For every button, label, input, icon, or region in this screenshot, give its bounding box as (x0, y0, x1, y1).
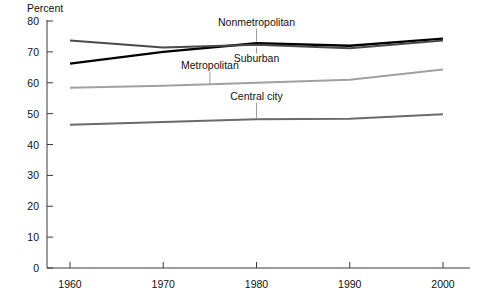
x-tick-label: 1990 (338, 278, 362, 290)
chart-page: 0102030405060708019601970198019902000 No… (0, 0, 488, 308)
y-tick-label: 40 (27, 139, 39, 151)
line-chart: 0102030405060708019601970198019902000 No… (0, 0, 488, 308)
x-tick-label: 1960 (58, 278, 82, 290)
y-tick-label: 10 (27, 231, 39, 243)
series-label-suburban: Suburban (234, 52, 280, 64)
y-tick-label: 50 (27, 108, 39, 120)
series-label-metropolitan: Metropolitan (181, 59, 239, 71)
x-tick-label: 2000 (431, 278, 455, 290)
series-line-suburban (70, 40, 443, 48)
y-tick-label: 30 (27, 169, 39, 181)
y-tick-label: 70 (27, 46, 39, 58)
y-tick-label: 20 (27, 200, 39, 212)
series-label-central-city: Central city (230, 90, 283, 102)
y-tick-label: 60 (27, 77, 39, 89)
x-tick-label: 1980 (245, 278, 269, 290)
y-tick-label: 0 (33, 262, 39, 274)
y-axis-title: Percent (27, 2, 63, 14)
x-tick-label: 1970 (152, 278, 176, 290)
series-line-metropolitan (70, 69, 443, 87)
series-label-nonmetropolitan: Nonmetropolitan (218, 16, 295, 28)
chart-series-labels: NonmetropolitanSuburbanMetropolitanCentr… (181, 16, 295, 118)
y-tick-label: 80 (27, 15, 39, 27)
